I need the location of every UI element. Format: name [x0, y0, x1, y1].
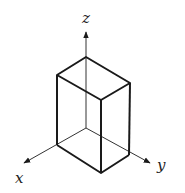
axes-box-diagram: z x y	[0, 0, 185, 193]
box-edge-right	[129, 83, 130, 155]
coordinate-axes	[24, 32, 150, 163]
y-axis	[86, 128, 150, 163]
y-axis-label: y	[156, 156, 166, 174]
z-axis-label: z	[81, 9, 90, 27]
rectangular-box	[57, 57, 130, 173]
box-bottom-front-edges	[57, 145, 129, 173]
x-axis-label: x	[15, 169, 24, 187]
box-top-face	[57, 57, 130, 100]
